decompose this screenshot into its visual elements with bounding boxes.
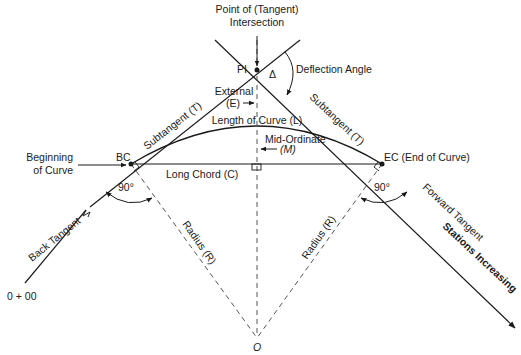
ec-label: EC (End of Curve) [384, 151, 470, 163]
external-label: External [215, 85, 254, 97]
radius-left-line [131, 164, 257, 338]
pi-point [255, 68, 260, 73]
mid-ordinate-symbol: (M) [280, 143, 296, 155]
long-chord-label: Long Chord (C) [166, 168, 238, 180]
length-of-curve-label: Length of Curve (L) [212, 114, 302, 126]
forward-tangent-line [215, 40, 515, 328]
deflection-angle-arc [285, 52, 293, 95]
angle-arc-right [361, 192, 407, 203]
angle-left-label: 90° [118, 181, 134, 193]
beginning-label-2: of Curve [33, 164, 73, 176]
beginning-label-1: Beginning [26, 151, 73, 163]
ec-right-angle-mark [374, 162, 379, 171]
pi-title-line2: Intersection [230, 16, 284, 28]
pi-title-line1: Point of (Tangent) [216, 3, 299, 15]
curve-diagram: Point of (Tangent) Intersection PI Δ Def… [0, 0, 521, 355]
deflection-angle-label: Deflection Angle [296, 63, 372, 75]
station-start-label: 0 + 00 [7, 290, 37, 302]
bc-label: BC [116, 151, 131, 163]
deflection-symbol: Δ [269, 68, 276, 80]
angle-arc-left [106, 192, 152, 203]
external-symbol: (E) [226, 97, 240, 109]
pi-label: PI [237, 63, 247, 75]
radius-right-label: Radius (R) [299, 213, 338, 261]
center-label: O [253, 341, 261, 353]
radius-right-line [257, 164, 382, 338]
angle-right-label: 90° [374, 181, 390, 193]
back-tangent-label: Back Tangent [26, 214, 83, 263]
